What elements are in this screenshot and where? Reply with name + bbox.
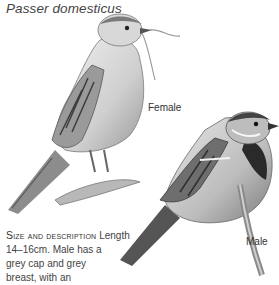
description-line-3: grey cap and grey xyxy=(6,258,86,269)
description-line-1: Length xyxy=(99,230,130,241)
description-text: Size and description Length 14–16cm. Mal… xyxy=(6,228,136,285)
description-line-2: 14–16cm. Male has a xyxy=(6,244,102,255)
male-sparrow-illustration xyxy=(120,112,279,275)
description-heading: Size and description xyxy=(6,229,96,241)
female-label: Female xyxy=(148,102,181,113)
male-label: Male xyxy=(246,236,268,247)
female-sparrow-illustration xyxy=(8,14,180,214)
description-line-4: breast, with an xyxy=(6,272,71,283)
